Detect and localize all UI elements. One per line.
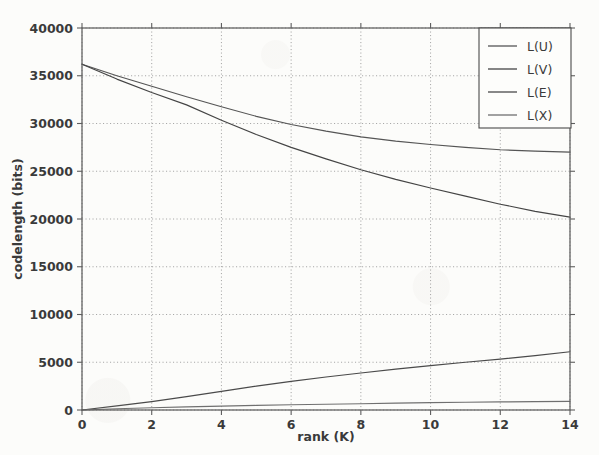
legend-label-lu: L(U): [527, 39, 553, 54]
x-tick-label: 2: [147, 417, 156, 432]
x-tick-label: 10: [422, 417, 440, 432]
x-tick-label: 8: [357, 417, 366, 432]
y-tick-label: 30000: [30, 116, 74, 131]
y-tick-labels: 0500010000150002000025000300003500040000: [30, 21, 74, 418]
x-tick-label: 6: [287, 417, 296, 432]
series-line-lx: [82, 401, 570, 410]
chart-legend: L(U)L(V)L(E)L(X): [479, 28, 571, 128]
legend-label-lv: L(V): [527, 62, 552, 77]
series-line-le: [82, 352, 570, 410]
y-tick-label: 15000: [30, 259, 74, 274]
x-tick-label: 4: [217, 417, 226, 432]
y-tick-label: 5000: [38, 355, 73, 370]
y-tick-label: 35000: [30, 68, 74, 83]
x-tick-label: 0: [78, 417, 87, 432]
x-axis-title: rank (K): [297, 429, 354, 444]
y-tick-label: 10000: [30, 307, 74, 322]
y-tick-label: 20000: [30, 212, 74, 227]
y-tick-label: 0: [64, 403, 73, 418]
legend-label-lx: L(X): [527, 108, 552, 123]
x-tick-label: 14: [561, 417, 579, 432]
chart-figure: 02468101214 0500010000150002000025000300…: [0, 0, 599, 455]
legend-label-le: L(E): [527, 85, 552, 100]
legend-box: [479, 28, 571, 128]
y-tick-label: 40000: [30, 21, 74, 36]
y-tick-label: 25000: [30, 164, 74, 179]
y-axis-title: codelength (bits): [10, 158, 25, 279]
x-tick-label: 12: [492, 417, 509, 432]
chart-svg: 02468101214 0500010000150002000025000300…: [0, 0, 599, 455]
